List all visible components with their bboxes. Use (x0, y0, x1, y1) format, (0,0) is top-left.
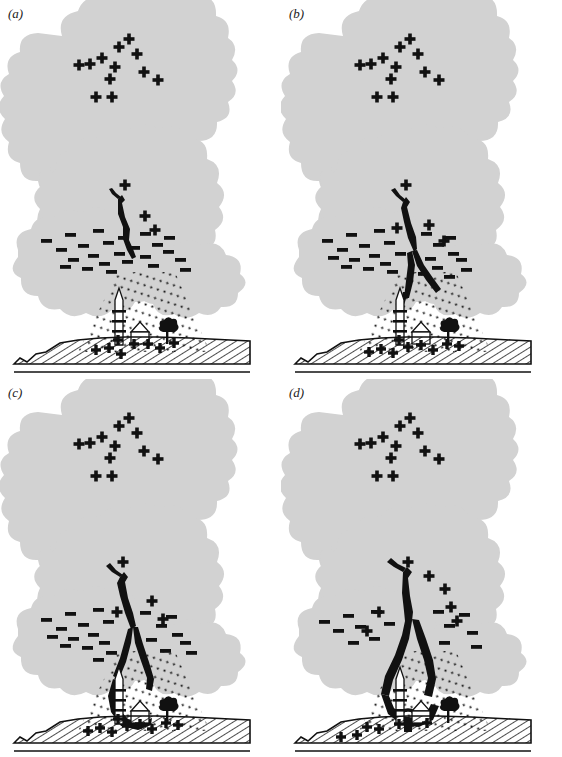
panel-b: (b) (281, 0, 562, 378)
panel-c-svg (0, 379, 281, 757)
panel-a-label: (a) (8, 6, 23, 22)
panel-a: (a) (0, 0, 281, 378)
panel-a-svg (0, 0, 281, 378)
ground-terrain-a (14, 337, 250, 372)
panel-c-scene (0, 379, 281, 757)
ground-terrain-b (295, 337, 531, 372)
panel-c-label: (c) (8, 385, 22, 401)
panel-d-scene (281, 379, 562, 757)
panel-b-scene (281, 0, 562, 378)
panel-d-label: (d) (289, 385, 304, 401)
panel-b-label: (b) (289, 6, 304, 22)
ground-terrain-d (295, 716, 531, 751)
lightning-development-figure: (a) (0, 0, 562, 757)
panel-d-svg (281, 379, 562, 757)
ground-terrain-c (14, 716, 250, 751)
panel-d: (d) (281, 379, 562, 757)
panel-a-scene (0, 0, 281, 378)
panel-b-svg (281, 0, 562, 378)
panel-c: (c) (0, 379, 281, 757)
